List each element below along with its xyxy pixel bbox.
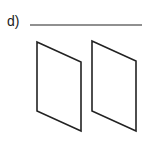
right-plane-shape bbox=[92, 41, 136, 131]
figure bbox=[0, 0, 150, 145]
left-plane-shape bbox=[37, 42, 81, 131]
